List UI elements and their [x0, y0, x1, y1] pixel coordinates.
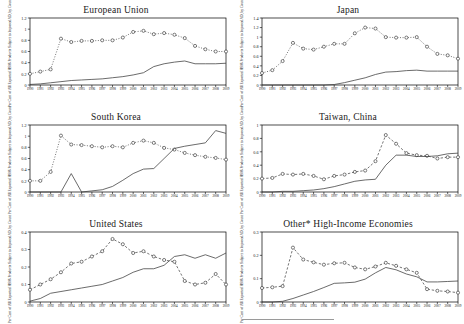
series-marker [260, 71, 263, 74]
series-marker [111, 145, 114, 148]
panel-taiwan-china: Taiwan, China Per Cent of All Exported H… [232, 107, 464, 214]
x-tick-label: 2003 [161, 87, 168, 91]
series-marker [194, 283, 197, 286]
x-tick-label: 2008 [212, 194, 219, 198]
series-marker [395, 36, 398, 39]
x-tick-label: 1999 [352, 194, 359, 198]
series-marker [39, 283, 42, 286]
x-tick-label: 2005 [181, 87, 188, 91]
y-tick-label: 1 [25, 27, 27, 32]
x-tick-label: 1991 [37, 194, 44, 198]
x-tick-label: 2005 [181, 194, 188, 198]
y-tick-label: 1.4 [253, 16, 259, 21]
series-marker [364, 268, 367, 271]
series-marker [312, 48, 315, 51]
series-marker [70, 262, 73, 265]
series-marker [152, 33, 155, 36]
y-tick-label: 0.2 [21, 179, 26, 184]
x-tick-label: 2000 [130, 194, 137, 198]
series-marker [415, 271, 418, 274]
x-tick-label: 1994 [300, 304, 307, 308]
series-line [30, 31, 226, 74]
series-marker [163, 258, 166, 261]
series-marker [183, 279, 186, 282]
plot-area: 00.20.40.60.811.219901991199219931994199… [0, 107, 232, 214]
series-marker [121, 146, 124, 149]
x-tick-label: 1992 [47, 87, 54, 91]
series-marker [271, 69, 274, 72]
y-tick-label: 0.6 [253, 54, 258, 59]
series-marker [426, 154, 429, 157]
series-marker [142, 29, 145, 32]
series-marker [111, 237, 114, 240]
x-tick-label: 1998 [109, 304, 116, 308]
series-marker [395, 142, 398, 145]
plot-frame [262, 18, 458, 85]
plot-frame [30, 18, 226, 85]
series-marker [271, 286, 274, 289]
series-marker [415, 36, 418, 39]
figure-panel-grid: European Union Per Cent of All Exported … [0, 0, 464, 324]
x-tick-label: 2005 [413, 87, 420, 91]
x-tick-label: 1999 [120, 304, 127, 308]
series-marker [59, 271, 62, 274]
x-tick-label: 1993 [290, 304, 297, 308]
x-tick-label: 1990 [259, 194, 266, 198]
y-tick-label: 0.6 [21, 156, 26, 161]
series-marker [426, 45, 429, 48]
x-tick-label: 1997 [99, 304, 106, 308]
series-line [30, 136, 226, 181]
series-marker [224, 158, 227, 161]
series-marker [59, 37, 62, 40]
series-marker [302, 258, 305, 261]
y-tick-label: 0.8 [21, 38, 26, 43]
series-marker [90, 255, 93, 258]
series-marker [436, 52, 439, 55]
series-line [262, 267, 458, 302]
x-tick-label: 2007 [434, 194, 441, 198]
x-tick-label: 1997 [331, 194, 338, 198]
y-tick-label: 0.8 [21, 145, 26, 150]
x-tick-label: 1996 [321, 304, 328, 308]
series-marker [163, 32, 166, 35]
x-tick-label: 2007 [434, 87, 441, 91]
series-marker [142, 250, 145, 253]
x-tick-label: 2009 [455, 194, 462, 198]
x-tick-label: 2007 [202, 87, 209, 91]
panel-south-korea: South Korea Per Cent of All Exported HS0… [0, 107, 232, 214]
x-tick-label: 2004 [171, 194, 178, 198]
x-tick-label: 1998 [109, 194, 116, 198]
x-tick-label: 1997 [99, 194, 106, 198]
x-tick-label: 2000 [362, 304, 369, 308]
x-tick-label: 1994 [68, 87, 75, 91]
x-tick-label: 2007 [202, 194, 209, 198]
x-tick-label: 1998 [341, 304, 348, 308]
y-tick-label: 0.2 [253, 73, 258, 78]
x-tick-label: 2000 [130, 87, 137, 91]
x-tick-label: 1997 [331, 87, 338, 91]
y-tick-label: 1 [25, 134, 27, 139]
x-tick-label: 2004 [171, 87, 178, 91]
series-marker [28, 288, 31, 291]
series-marker [183, 151, 186, 154]
series-marker [90, 145, 93, 148]
series-line [30, 239, 226, 290]
series-marker [49, 170, 52, 173]
x-tick-label: 1992 [47, 194, 54, 198]
y-tick-label: 0.2 [21, 72, 26, 77]
series-marker [374, 265, 377, 268]
series-marker [426, 288, 429, 291]
y-tick-label: 0.3 [253, 230, 258, 235]
x-tick-label: 2002 [382, 194, 389, 198]
x-tick-label: 2003 [161, 304, 168, 308]
x-tick-label: 2008 [212, 304, 219, 308]
series-marker [353, 266, 356, 269]
series-line [30, 253, 226, 301]
series-marker [291, 41, 294, 44]
series-marker [456, 156, 459, 159]
x-tick-label: 1998 [109, 87, 116, 91]
x-tick-label: 1991 [269, 304, 276, 308]
x-tick-label: 1995 [310, 87, 317, 91]
panel-united-states: United States Per Cent of All Exported H… [0, 214, 232, 324]
x-tick-label: 2005 [413, 194, 420, 198]
